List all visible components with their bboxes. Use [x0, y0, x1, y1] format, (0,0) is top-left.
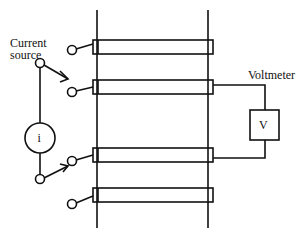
- four-probe-circuit-diagram: Current source Voltmeter i V: [0, 0, 306, 238]
- voltmeter-label: Voltmeter: [248, 68, 295, 82]
- switch-bottom: [44, 166, 68, 178]
- source-node-bottom: [36, 175, 45, 184]
- switch-top: [44, 65, 68, 79]
- contact-bar-1: [93, 40, 213, 54]
- contact-bar-2: [93, 80, 213, 94]
- terminal-3: [68, 157, 77, 166]
- terminal-2: [68, 88, 77, 97]
- terminal-4: [68, 200, 77, 209]
- terminal-1: [68, 46, 77, 55]
- voltmeter-symbol: V: [259, 118, 268, 132]
- contact-bar-3: [93, 148, 213, 162]
- contact-bar-4: [93, 188, 213, 202]
- current-source-label-line2: source: [10, 48, 41, 62]
